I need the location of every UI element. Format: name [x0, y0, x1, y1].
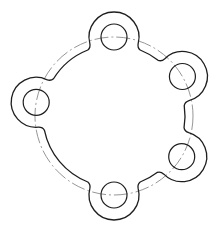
bolt-hole-left: [23, 89, 49, 115]
bolt-hole-top: [101, 24, 127, 50]
bolt-hole-upper-right: [169, 64, 195, 90]
bolt-holes: [23, 24, 195, 208]
flange-outline: [11, 12, 207, 220]
pitch-circle-centerline: [35, 37, 193, 195]
flange-drawing: [0, 0, 219, 233]
bolt-hole-lower-right: [169, 144, 195, 170]
